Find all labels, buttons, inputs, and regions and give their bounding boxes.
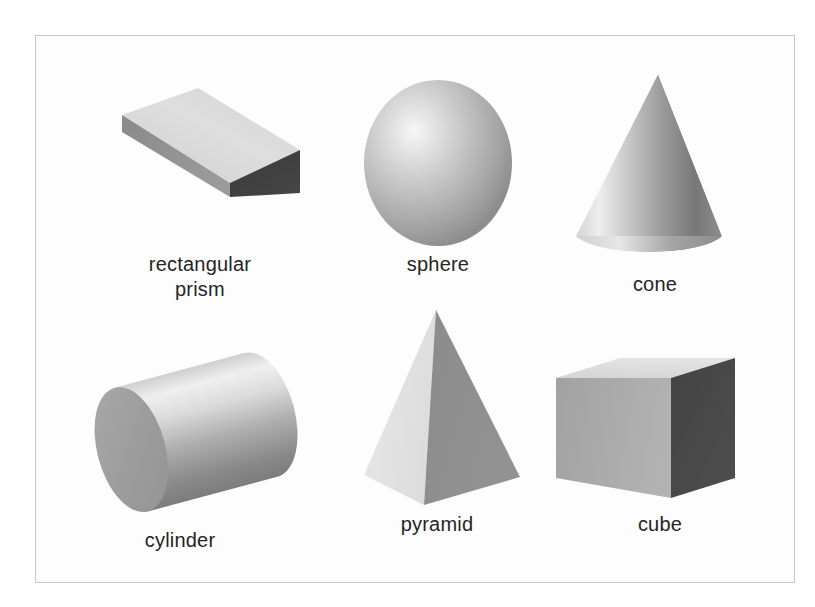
shape-sphere bbox=[362, 78, 514, 248]
label-pyramid: pyramid bbox=[372, 512, 502, 537]
pyramid-left-face bbox=[364, 310, 436, 505]
shape-cube bbox=[550, 352, 745, 507]
cube-side-face bbox=[556, 378, 671, 498]
shapes-figure: rectangular prism sphere bbox=[0, 0, 815, 607]
label-sphere: sphere bbox=[368, 252, 508, 277]
shape-pyramid bbox=[360, 305, 535, 515]
cone-base-arc bbox=[576, 236, 722, 252]
pyramid-right-face bbox=[424, 310, 520, 505]
shape-rectangular-prism bbox=[100, 75, 315, 215]
sphere-body bbox=[364, 80, 512, 246]
label-rectangular-prism: rectangular prism bbox=[80, 252, 320, 302]
label-cube: cube bbox=[600, 512, 720, 537]
shape-cone bbox=[570, 70, 732, 260]
cube-front-face bbox=[671, 358, 735, 498]
label-cone: cone bbox=[595, 272, 715, 297]
cone-body bbox=[576, 74, 722, 252]
label-cylinder: cylinder bbox=[105, 528, 255, 553]
shape-cylinder bbox=[85, 352, 310, 512]
